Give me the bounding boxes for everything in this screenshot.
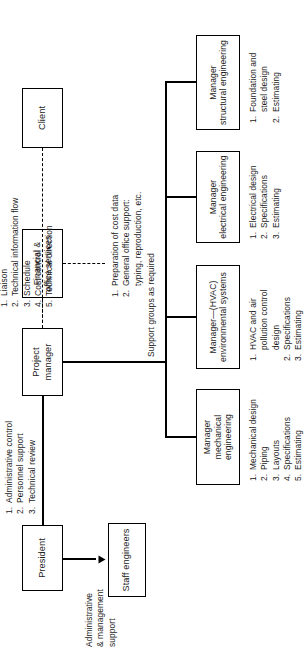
list-item-number: 2.: [271, 112, 282, 123]
list-item: 1.Mechanical design: [248, 377, 259, 481]
edge-bus-to-hvac: [165, 317, 196, 319]
list-item-text: Mechanical design: [248, 399, 258, 470]
list-item-text: Personnel support: [15, 433, 25, 503]
list-item: 2.Technical information flow: [10, 157, 21, 307]
list-structural-engineering: 1.Foundation and steel design 2.Estimati…: [248, 19, 282, 123]
list-item-text: Technical direction: [44, 225, 54, 296]
list-item: 1.Administrative control: [4, 404, 15, 514]
list-item-number: 3.: [271, 470, 282, 481]
rotated-diagram-wrapper: President Project manager Client Staff e…: [0, 0, 299, 653]
list-item-text: Technical review: [27, 440, 37, 503]
list-item: 4.Cost control: [33, 157, 44, 307]
list-item-number: 3.: [27, 503, 38, 514]
list-item: 1.HVAC and air pollution control design: [248, 257, 282, 361]
node-manager-mechanical-engineering-label: Manager mechanical engineering: [202, 392, 233, 482]
node-manager-electrical-engineering-label: Manager electrical engineering: [208, 155, 229, 238]
list-item: 2.Estimating: [271, 19, 282, 123]
list-item-text: Electrical design: [248, 165, 258, 228]
list-item-number: 5.: [293, 470, 299, 481]
list-item-text: Foundation and steel design: [248, 52, 269, 112]
edge-president-to-staff-engineers: [63, 559, 96, 561]
list-hvac-environmental-systems: 1.HVAC and air pollution control design …: [248, 257, 299, 361]
list-item-number: 2.: [121, 286, 132, 297]
list-item-number: 1.: [4, 503, 15, 514]
node-client-label: Client: [37, 106, 48, 130]
list-mechanical-engineering: 1.Mechanical design 2.Piping 3.Layouts 4…: [248, 377, 299, 481]
arrowhead-staff-engineers: [99, 556, 106, 564]
list-item: 2.Specifications: [282, 257, 293, 361]
node-staff-engineers-label: Staff engineers: [121, 528, 132, 591]
list-item-text: Liaison: [0, 269, 9, 296]
list-item-text: Preparation of cost data: [110, 195, 120, 286]
node-president: President: [22, 525, 63, 591]
list-item: 3.Layouts: [271, 377, 282, 481]
list-item-text: Cost control: [33, 250, 43, 296]
list-item-number: 4.: [282, 470, 293, 481]
list-item-text: Administrative control: [4, 421, 14, 503]
list-item-number: 1.: [248, 228, 259, 239]
list-item-number: 3.: [271, 228, 282, 239]
list-item: 1.Electrical design: [248, 135, 259, 239]
list-item: 3.Technical review: [27, 404, 38, 514]
list-item: 2.Specifications: [259, 135, 270, 239]
list-project-manager-to-client: 1.Liaison 2.Technical information flow 3…: [0, 157, 55, 307]
list-item: 1.Preparation of cost data: [110, 157, 121, 297]
list-financial-office-services: 1.Preparation of cost data 2.General off…: [110, 157, 144, 297]
list-item-number: 2.: [10, 296, 21, 307]
node-president-label: President: [37, 538, 48, 578]
node-manager-hvac-environmental-systems: Manager—(HVAC) environmental systems: [196, 265, 240, 369]
list-item: 3.Schedule: [22, 157, 33, 307]
list-item-text: Estimating: [271, 188, 281, 228]
list-item-number: 3.: [293, 350, 299, 361]
list-item-text: Specifications: [282, 417, 292, 470]
list-item-number: 1.: [110, 286, 121, 297]
label-administrative-management-support: Administrative & management support: [84, 569, 118, 647]
list-item-number: 2.: [282, 350, 293, 361]
list-item-number: 4.: [33, 296, 44, 307]
list-electrical-engineering: 1.Electrical design 2.Specifications 3.E…: [248, 135, 282, 239]
list-item-text: General office support: typing, reproduc…: [121, 192, 142, 286]
list-item: 3.Estimating: [293, 257, 299, 361]
list-item: 1.Foundation and steel design: [248, 19, 271, 123]
node-manager-hvac-environmental-systems-label: Manager—(HVAC) environmental systems: [208, 272, 229, 362]
edge-bus-to-mechanical: [165, 437, 196, 439]
list-item-text: Layouts: [271, 440, 281, 470]
list-item-number: 5.: [44, 296, 55, 307]
list-item: 4.Specifications: [282, 377, 293, 481]
list-item: 5.Estimating: [293, 377, 299, 481]
node-manager-electrical-engineering: Manager electrical engineering: [196, 151, 240, 243]
list-item: 5.Technical direction: [44, 157, 55, 307]
edge-president-to-project-manager: [42, 396, 44, 525]
list-item: 2.Piping: [259, 377, 270, 481]
list-item-number: 2.: [15, 503, 26, 514]
node-manager-structural-engineering: Manager structural engineering: [196, 35, 240, 130]
list-item-text: Estimating: [293, 430, 299, 470]
edge-bus-to-structural: [165, 82, 196, 84]
edge-bus-to-electrical: [165, 197, 196, 199]
node-project-manager: Project manager: [22, 328, 63, 396]
edge-financial-dashed-drop: [63, 263, 105, 264]
edge-project-manager-trunk: [63, 362, 165, 364]
list-item-number: 2.: [259, 228, 270, 239]
list-president-to-project-manager: 1.Administrative control 2.Personnel sup…: [4, 404, 38, 514]
list-item-text: Technical information flow: [10, 198, 20, 297]
list-item: 1.Liaison: [0, 157, 10, 307]
list-item-number: 1.: [248, 350, 259, 361]
node-project-manager-label: Project manager: [31, 331, 53, 393]
list-item-text: Specifications: [259, 175, 269, 228]
list-item-text: Estimating: [293, 310, 299, 350]
node-manager-structural-engineering-label: Manager structural engineering: [208, 40, 229, 125]
node-manager-mechanical-engineering: Manager mechanical engineering: [196, 389, 240, 485]
edge-support-group-bus: [165, 83, 167, 438]
list-item: 2.General office support: typing, reprod…: [121, 157, 144, 297]
label-support-groups-as-required: Support groups as required: [146, 207, 157, 357]
list-item-text: Piping: [259, 446, 269, 470]
list-item-text: Estimating: [271, 72, 281, 112]
node-client: Client: [22, 88, 63, 148]
list-item-text: Schedule: [22, 260, 32, 296]
list-item-text: Specifications: [282, 297, 292, 350]
list-item-number: 1.: [248, 112, 259, 123]
list-item: 2.Personnel support: [15, 404, 26, 514]
list-item-text: HVAC and air pollution control design: [248, 290, 281, 350]
list-item-number: 2.: [259, 470, 270, 481]
